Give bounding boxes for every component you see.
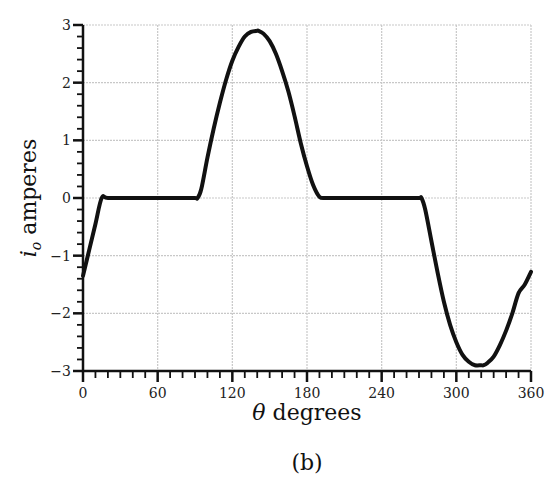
x-tick-label: 240 [368, 385, 395, 401]
y-tick-label: −2 [50, 305, 71, 321]
y-tick-label: 1 [62, 132, 71, 148]
x-axis-title: θ degrees [252, 400, 361, 425]
y-tick-label: −1 [50, 248, 71, 264]
y-tick-label: 2 [62, 75, 71, 91]
y-tick-label: 0 [62, 190, 71, 206]
x-tick-label: 120 [219, 385, 246, 401]
x-tick-label: 0 [79, 385, 88, 401]
x-tick-label: 360 [518, 385, 545, 401]
axes [73, 25, 531, 382]
y-tick-label: 3 [62, 17, 71, 33]
y-axis-title: io amperes [16, 139, 44, 257]
x-tick-label: 180 [294, 385, 321, 401]
y-tick-label: −3 [50, 363, 71, 379]
x-tick-label: 300 [443, 385, 470, 401]
figure-caption: (b) [291, 450, 322, 475]
tick-labels: 060120180240300360−3−2−10123 [50, 17, 544, 401]
x-tick-label: 60 [149, 385, 167, 401]
chart: 060120180240300360−3−2−10123 θ degrees i… [0, 0, 551, 487]
